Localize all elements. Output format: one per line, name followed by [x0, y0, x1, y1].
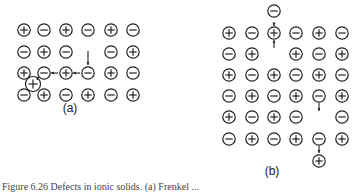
- cation: [336, 90, 348, 102]
- anion: [38, 67, 50, 79]
- arrow-head: [318, 150, 321, 153]
- anion: [246, 111, 258, 123]
- anion: [268, 90, 280, 102]
- anion: [38, 24, 50, 36]
- interstitial-cation: [26, 77, 41, 92]
- anion: [313, 48, 325, 60]
- anion: [336, 111, 348, 123]
- cation: [268, 69, 280, 81]
- anion: [82, 67, 94, 79]
- anion: [223, 48, 235, 60]
- panel-b-schottky: [223, 5, 348, 167]
- anion: [18, 46, 30, 58]
- arrow-head: [273, 23, 276, 26]
- migration-arrow: [273, 22, 276, 26]
- anion: [313, 90, 325, 102]
- cation: [82, 89, 94, 101]
- anion: [290, 69, 302, 81]
- anion: [336, 27, 348, 39]
- surface-cation: [313, 155, 325, 167]
- cation: [313, 69, 325, 81]
- cation: [290, 90, 302, 102]
- cation: [18, 67, 30, 79]
- anion: [105, 46, 117, 58]
- anion: [127, 24, 139, 36]
- cation: [336, 48, 348, 60]
- cation: [105, 24, 117, 36]
- arrow-head: [73, 72, 76, 75]
- cation: [105, 67, 117, 79]
- anion: [313, 133, 325, 145]
- arrow-head: [273, 40, 276, 43]
- anion: [60, 89, 72, 101]
- cation: [38, 46, 50, 58]
- vacancy-arrow: [87, 51, 90, 65]
- cation: [18, 24, 30, 36]
- ionic-defects-diagram: (a) (b): [0, 0, 356, 192]
- arrow-head: [87, 62, 90, 65]
- cation: [246, 48, 258, 60]
- anion: [105, 89, 117, 101]
- anion: [82, 24, 94, 36]
- anion: [127, 67, 139, 79]
- arrow-head: [51, 72, 54, 75]
- cation: [313, 27, 325, 39]
- anion: [268, 133, 280, 145]
- cation: [60, 67, 72, 79]
- cation: [246, 90, 258, 102]
- anion: [223, 90, 235, 102]
- anion: [223, 133, 235, 145]
- cation: [223, 69, 235, 81]
- cation: [290, 133, 302, 145]
- anion: [290, 111, 302, 123]
- cation: [38, 89, 50, 101]
- surface-anion: [268, 5, 280, 17]
- cation: [290, 48, 302, 60]
- arrow-head: [318, 108, 321, 111]
- migration-arrow: [273, 40, 276, 48]
- anion: [246, 69, 258, 81]
- panel-a-label: (a): [63, 101, 78, 115]
- panel-a-frenkel: [18, 24, 139, 101]
- cation: [336, 133, 348, 145]
- migration-arrow: [73, 72, 80, 75]
- cation: [268, 111, 280, 123]
- panel-b-label: (b): [265, 164, 280, 178]
- cation: [246, 133, 258, 145]
- anion: [60, 46, 72, 58]
- migration-arrow: [51, 72, 58, 75]
- migration-arrow: [318, 103, 321, 111]
- anion: [246, 27, 258, 39]
- cation: [223, 27, 235, 39]
- anion: [18, 89, 30, 101]
- migration-arrow: [318, 146, 321, 153]
- cation: [127, 46, 139, 58]
- figure-caption: Figure 6.26 Defects in ionic solids. (a)…: [2, 181, 199, 192]
- cation: [60, 24, 72, 36]
- anion: [336, 69, 348, 81]
- anion: [290, 27, 302, 39]
- cation: [127, 89, 139, 101]
- cation: [268, 27, 280, 39]
- cation: [223, 111, 235, 123]
